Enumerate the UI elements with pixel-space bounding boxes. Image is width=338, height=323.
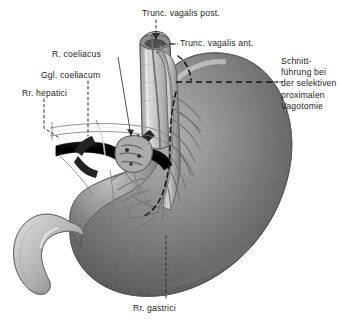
label-trunc-vagalis-ant: Trunc. vagalis ant.: [180, 38, 253, 48]
label-rr-gastrici: Rr. gastrici: [133, 303, 176, 313]
illustration-canvas: [0, 0, 338, 323]
duodenum: [13, 214, 84, 295]
leader-rr-hepatici: [44, 99, 58, 137]
label-rr-hepatici: Rr. hepatici: [22, 88, 67, 98]
label-trunc-vagalis-post: Trunc. vagalis post.: [142, 8, 220, 18]
label-ggl-coeliacum: Ggl. coeliacum: [41, 70, 100, 80]
label-r-coeliacus: R. coeliacus: [52, 49, 101, 59]
label-schnittfuehrung: Schnitt- führung bei der selektiven prox…: [281, 56, 337, 112]
hepatic-artery: [56, 136, 124, 178]
anatomical-figure: Trunc. vagalis post. Trunc. vagalis ant.…: [0, 0, 338, 323]
